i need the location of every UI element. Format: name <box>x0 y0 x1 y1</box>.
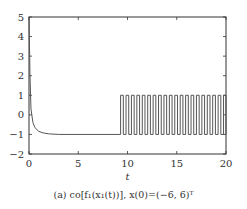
x-tick-label: 15 <box>170 158 183 169</box>
x-axis-label: t <box>125 171 130 182</box>
y-tick-label: 4 <box>18 31 24 42</box>
x-tick-label: 0 <box>26 158 32 169</box>
x-tick-label: 5 <box>75 158 81 169</box>
chart: 05101520−2−1012345t <box>0 0 247 185</box>
y-tick-label: 0 <box>18 109 24 120</box>
y-tick-label: 2 <box>18 70 24 81</box>
y-tick-label: −1 <box>9 129 24 140</box>
y-tick-label: −2 <box>9 149 24 160</box>
y-tick-label: 1 <box>18 90 24 101</box>
x-tick-label: 20 <box>220 158 233 169</box>
data-line <box>29 17 226 134</box>
figure-caption: (a) co[f₁(x₁(t))], x(0)=(−6, 6)ᵀ <box>0 189 247 200</box>
x-tick-label: 10 <box>121 158 134 169</box>
y-tick-label: 3 <box>18 51 24 62</box>
y-tick-label: 5 <box>18 12 24 23</box>
